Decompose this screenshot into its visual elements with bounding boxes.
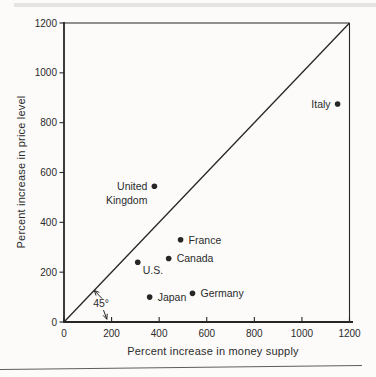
data-point-us xyxy=(135,259,141,265)
data-point-label-italy: Italy xyxy=(311,98,331,110)
data-point-italy xyxy=(335,101,341,107)
data-point-france xyxy=(178,237,184,243)
y-axis-tick-label: 1200 xyxy=(35,18,58,29)
money-growth-vs-inflation-chart: 0200400600800100012000200400600800100012… xyxy=(0,0,376,377)
forty-five-degree-line xyxy=(64,23,350,322)
data-point-germany xyxy=(190,291,196,297)
y-axis-tick-label: 600 xyxy=(40,167,57,178)
y-axis-tick-label: 400 xyxy=(40,217,57,228)
y-axis-tick-label: 0 xyxy=(51,317,57,328)
data-point-label-united-kingdom: UnitedKingdom xyxy=(106,180,148,206)
data-point-label-france: France xyxy=(189,234,222,246)
y-axis-tick-label: 1000 xyxy=(35,67,58,78)
scatter-plot-canvas: 0200400600800100012000200400600800100012… xyxy=(0,0,376,377)
data-point-label-japan: Japan xyxy=(158,291,187,303)
x-axis-tick-label: 800 xyxy=(246,328,263,339)
data-point-canada xyxy=(166,256,172,262)
data-point-united-kingdom xyxy=(152,183,158,189)
data-point-label-germany: Germany xyxy=(200,287,244,299)
x-axis-tick-label: 400 xyxy=(151,328,168,339)
data-point-japan xyxy=(147,294,153,300)
x-axis-tick-label: 1000 xyxy=(291,328,314,339)
y-axis-tick-label: 200 xyxy=(40,267,57,278)
angle-label: 45° xyxy=(93,297,109,309)
scanned-textbook-figure-page: 0200400600800100012000200400600800100012… xyxy=(0,0,376,377)
x-axis-tick-label: 200 xyxy=(103,328,120,339)
x-axis-tick-label: 1200 xyxy=(338,328,361,339)
data-point-label-canada: Canada xyxy=(177,252,214,264)
x-axis-tick-label: 600 xyxy=(198,328,215,339)
y-axis-tick-label: 800 xyxy=(40,117,57,128)
x-axis-title: Percent increase in money supply xyxy=(70,345,356,357)
x-axis-tick-label: 0 xyxy=(61,328,67,339)
y-axis-title: Percent increase in price level xyxy=(15,96,27,249)
data-point-label-us: U.S. xyxy=(143,264,163,276)
